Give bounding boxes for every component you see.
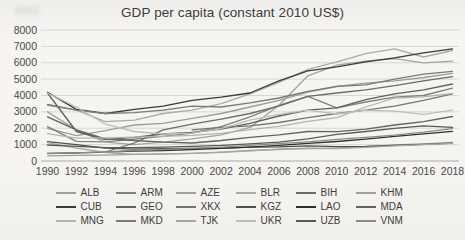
- legend-label: UZB: [321, 214, 341, 228]
- legend-label: UKR: [261, 214, 282, 228]
- legend-line-swatch: [236, 220, 256, 222]
- chart-legend: ALBARMAZEBLRBIHKHMCUBGEOXKXKGZLAOMDAMNGM…: [6, 186, 465, 228]
- legend-label: LAO: [321, 200, 341, 214]
- legend-label: ALB: [81, 186, 100, 200]
- legend-item-ARM: ARM: [116, 186, 176, 200]
- legend-item-MKD: MKD: [116, 214, 176, 228]
- chart-plot-area: 0100020003000400050006000700080001990199…: [0, 0, 465, 185]
- legend-label: CUB: [81, 200, 102, 214]
- legend-item-MNG: MNG: [56, 214, 116, 228]
- legend-line-swatch: [356, 220, 376, 222]
- legend-label: AZE: [201, 186, 220, 200]
- legend-item-KHM: KHM: [356, 186, 416, 200]
- y-tick-label: 4000: [14, 89, 38, 101]
- legend-item-VNM: VNM: [356, 214, 416, 228]
- y-tick-label: 6000: [14, 56, 38, 68]
- x-tick-label: 2002: [209, 165, 233, 177]
- gdp-chart: GDP per capita (constant 2010 US$) 01000…: [0, 0, 465, 240]
- legend-item-GEO: GEO: [116, 200, 176, 214]
- legend-line-swatch: [116, 220, 136, 222]
- legend-label: BLR: [261, 186, 280, 200]
- legend-item-MDA: MDA: [356, 200, 416, 214]
- x-tick-label: 1996: [123, 165, 147, 177]
- x-tick-label: 2000: [180, 165, 204, 177]
- x-tick-label: 1994: [94, 165, 118, 177]
- x-tick-label: 2004: [238, 165, 262, 177]
- series-line-MNG: [48, 94, 453, 139]
- legend-line-swatch: [356, 192, 376, 194]
- legend-row: ALBARMAZEBLRBIHKHM: [56, 186, 416, 200]
- x-tick-label: 2016: [412, 165, 436, 177]
- y-tick-label: 1000: [14, 138, 38, 150]
- legend-item-CUB: CUB: [56, 200, 116, 214]
- legend-row: CUBGEOXKXKGZLAOMDA: [56, 200, 416, 214]
- legend-item-AZE: AZE: [176, 186, 236, 200]
- legend-line-swatch: [296, 192, 316, 194]
- x-tick-label: 2010: [325, 165, 349, 177]
- legend-line-swatch: [356, 206, 376, 208]
- x-tick-label: 2018: [441, 165, 465, 177]
- x-tick-label: 2014: [383, 165, 407, 177]
- y-tick-label: 7000: [14, 40, 38, 52]
- legend-label: MDA: [381, 200, 403, 214]
- legend-line-swatch: [56, 220, 76, 222]
- legend-label: TJK: [201, 214, 219, 228]
- legend-row: MNGMKDTJKUKRUZBVNM: [56, 214, 416, 228]
- legend-item-UKR: UKR: [236, 214, 296, 228]
- y-tick-label: 2000: [14, 122, 38, 134]
- legend-line-swatch: [116, 192, 136, 194]
- legend-item-KGZ: KGZ: [236, 200, 296, 214]
- legend-label: VNM: [381, 214, 403, 228]
- legend-label: BIH: [321, 186, 338, 200]
- x-tick-label: 2008: [296, 165, 320, 177]
- legend-line-swatch: [296, 206, 316, 208]
- x-tick-label: 2006: [267, 165, 291, 177]
- series-line-ARM: [48, 88, 453, 142]
- legend-line-swatch: [296, 220, 316, 222]
- y-tick-label: 8000: [14, 24, 38, 36]
- legend-label: XKX: [201, 200, 221, 214]
- legend-item-BIH: BIH: [296, 186, 356, 200]
- series-line-AZE: [48, 59, 453, 145]
- legend-label: KGZ: [261, 200, 282, 214]
- legend-label: GEO: [141, 200, 163, 214]
- legend-label: MKD: [141, 214, 163, 228]
- x-tick-label: 2012: [354, 165, 378, 177]
- legend-label: KHM: [381, 186, 403, 200]
- legend-line-swatch: [176, 192, 196, 194]
- legend-line-swatch: [176, 206, 196, 208]
- x-tick-label: 1990: [36, 165, 60, 177]
- y-tick-label: 3000: [14, 105, 38, 117]
- legend-item-ALB: ALB: [56, 186, 116, 200]
- legend-item-UZB: UZB: [296, 214, 356, 228]
- legend-line-swatch: [236, 192, 256, 194]
- legend-item-XKX: XKX: [176, 200, 236, 214]
- legend-line-swatch: [236, 206, 256, 208]
- legend-line-swatch: [56, 192, 76, 194]
- legend-item-BLR: BLR: [236, 186, 296, 200]
- legend-label: MNG: [81, 214, 104, 228]
- legend-item-TJK: TJK: [176, 214, 236, 228]
- legend-line-swatch: [56, 206, 76, 208]
- legend-item-LAO: LAO: [296, 200, 356, 214]
- x-tick-label: 1998: [152, 165, 176, 177]
- legend-label: ARM: [141, 186, 163, 200]
- x-tick-label: 1992: [65, 165, 89, 177]
- legend-line-swatch: [176, 220, 196, 222]
- y-tick-label: 5000: [14, 73, 38, 85]
- legend-line-swatch: [116, 206, 136, 208]
